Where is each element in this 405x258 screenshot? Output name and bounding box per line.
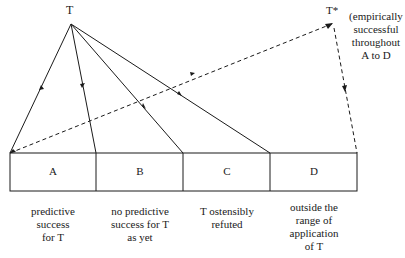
theory-node-label: T (66, 3, 73, 18)
dashed-arrowheads (10, 23, 347, 153)
region-c-letter: C (184, 165, 270, 177)
region-c-caption: T ostensibly refuted (184, 205, 270, 231)
successor-note: (empirically successful throughout A to … (345, 10, 405, 62)
region-a-caption: predictive success for T (10, 205, 96, 244)
region-d-caption: outside the range of application of T (271, 201, 357, 253)
region-a-letter: A (10, 165, 96, 177)
region-b-letter: B (97, 165, 183, 177)
region-d-letter: D (271, 165, 357, 177)
theory-lines (10, 24, 270, 153)
region-b-caption: no predictive success for T as yet (97, 205, 183, 244)
successor-node-label: T* (326, 4, 338, 16)
